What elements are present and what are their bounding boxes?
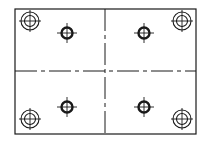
plate-drawing-svg xyxy=(0,0,209,143)
small-hole-top-right xyxy=(134,23,154,43)
counterbored-hole-top-left xyxy=(19,10,41,32)
small-hole-top-left xyxy=(57,23,77,43)
counterbored-hole-top-right xyxy=(171,10,193,32)
counterbored-holes xyxy=(19,10,193,130)
counterbored-hole-bottom-right xyxy=(171,108,193,130)
small-hole-bottom-right xyxy=(134,97,154,117)
centerlines xyxy=(15,9,196,134)
small-hole-bottom-left xyxy=(57,97,77,117)
technical-drawing xyxy=(0,0,209,143)
counterbored-hole-bottom-left xyxy=(19,108,41,130)
